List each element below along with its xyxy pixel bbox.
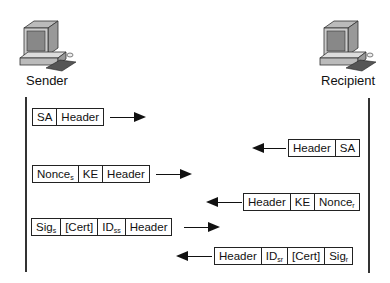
field: Nonces <box>33 166 78 182</box>
field: Sigs <box>32 219 60 235</box>
field: Header <box>102 166 149 182</box>
field: Header <box>244 194 290 210</box>
recipient-computer-icon <box>318 18 378 73</box>
field: Sigr <box>324 248 352 264</box>
recipient-lifeline <box>368 98 370 273</box>
message-1: SA Header <box>32 108 104 126</box>
arrow-right-icon <box>156 169 192 179</box>
field: [Cert] <box>287 248 324 264</box>
sender-label: Sender <box>26 73 68 88</box>
field: SA <box>33 109 56 125</box>
message-2: Header SA <box>288 139 360 157</box>
message-6: Header IDsr [Cert] Sigr <box>214 247 353 265</box>
field: Header <box>289 140 335 156</box>
field: [Cert] <box>60 219 97 235</box>
sender-computer-icon <box>18 18 78 73</box>
message-4: Header KE Noncer <box>243 193 360 211</box>
sender-lifeline <box>25 97 27 272</box>
field: KE <box>78 166 102 182</box>
field: Header <box>125 219 172 235</box>
field: SA <box>335 140 359 156</box>
recipient-label: Recipient <box>321 73 375 88</box>
arrow-right-icon <box>184 222 220 232</box>
field: KE <box>290 194 314 210</box>
field: Noncer <box>314 194 359 210</box>
field: Header <box>215 248 261 264</box>
arrow-left-icon <box>206 197 242 207</box>
field: Header <box>56 109 103 125</box>
field: IDss <box>97 219 125 235</box>
arrow-left-icon <box>176 251 212 261</box>
arrow-right-icon <box>110 112 146 122</box>
message-3: Nonces KE Header <box>32 165 150 183</box>
message-5: Sigs [Cert] IDss Header <box>31 218 172 236</box>
field: IDsr <box>261 248 287 264</box>
arrow-left-icon <box>252 143 286 153</box>
